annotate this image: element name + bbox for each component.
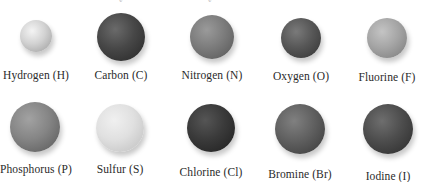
carbon-label: Carbon (C) <box>94 69 147 81</box>
chlorine-sphere-icon <box>187 104 235 152</box>
phosphorus-sphere-icon <box>10 102 60 152</box>
sulfur-label: Sulfur (S) <box>97 163 144 175</box>
nitrogen-sphere-icon <box>190 15 234 59</box>
cropped-caption-fragment: y <box>207 0 213 2</box>
chlorine-label: Chlorine (Cl) <box>180 166 243 178</box>
iodine-label: Iodine (I) <box>366 170 411 182</box>
nitrogen-label: Nitrogen (N) <box>182 69 243 81</box>
fluorine-sphere-icon <box>367 18 407 58</box>
bromine-sphere-icon <box>275 104 325 154</box>
sulfur-sphere-icon <box>96 104 144 152</box>
hydrogen-label: Hydrogen (H) <box>3 69 69 81</box>
phosphorus-label: Phosphorus (P) <box>0 163 72 175</box>
fluorine-label: Fluorine (F) <box>358 71 415 83</box>
hydrogen-sphere-icon <box>20 20 52 52</box>
iodine-sphere-icon <box>363 104 413 154</box>
carbon-sphere-icon <box>97 13 145 61</box>
bromine-label: Bromine (Br) <box>268 168 331 180</box>
oxygen-label: Oxygen (O) <box>273 70 329 82</box>
oxygen-sphere-icon <box>281 18 321 58</box>
cropped-caption: y y <box>0 0 423 2</box>
cropped-caption-fragment: y <box>118 0 124 2</box>
atom-models-figure: y y Hydrogen (H)Carbon (C)Nitrogen (N)Ox… <box>0 0 423 182</box>
